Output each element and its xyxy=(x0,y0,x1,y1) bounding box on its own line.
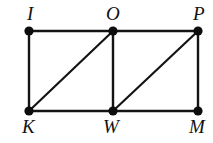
vertex-point-K xyxy=(24,106,33,115)
vertex-point-O xyxy=(108,26,117,35)
vertex-point-I xyxy=(24,26,33,35)
vertex-point-M xyxy=(193,106,202,115)
segment-KO xyxy=(29,31,113,111)
edges-group xyxy=(29,31,198,111)
vertex-label-I: I xyxy=(27,4,33,23)
vertex-point-W xyxy=(108,106,117,115)
vertex-label-M: M xyxy=(189,117,205,136)
vertex-point-P xyxy=(193,26,202,35)
geometry-figure: I O P K W M xyxy=(0,0,213,143)
vertex-label-P: P xyxy=(193,4,205,23)
vertex-label-W: W xyxy=(103,117,119,136)
vertex-label-K: K xyxy=(22,117,35,136)
segment-WP xyxy=(113,31,198,111)
vertex-label-O: O xyxy=(106,4,120,23)
